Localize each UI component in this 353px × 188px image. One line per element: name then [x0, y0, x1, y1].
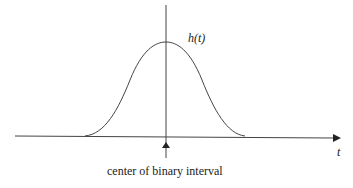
caption: center of binary interval: [107, 164, 223, 179]
pulse-diagram: h(t) t center of binary interval: [0, 0, 353, 188]
center-marker-arrow-icon: [162, 142, 170, 148]
time-axis: [15, 136, 333, 138]
axis-arrowhead-icon: [333, 134, 341, 142]
curve-label: h(t): [188, 31, 205, 46]
pulse-graphic: [0, 0, 353, 188]
pulse-curve: [85, 42, 245, 136]
axis-label: t: [337, 145, 340, 160]
